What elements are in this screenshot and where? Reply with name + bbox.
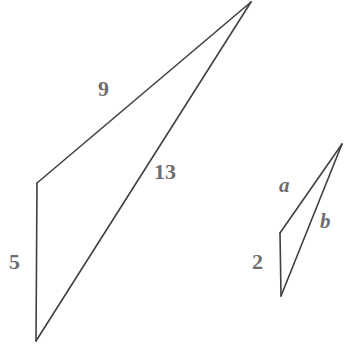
edge-label-9: 9 [98,78,109,100]
edge-label-13: 13 [154,161,176,183]
large-long-diagonal-edge [36,2,251,341]
edge-label-b: b [320,211,331,232]
large-triangle [36,2,251,341]
edge-label-a: a [279,175,290,196]
large-left-vertical-edge [36,183,37,341]
large-upper-slant-edge [37,2,251,183]
edge-label-5: 5 [9,251,20,273]
small-long-diagonal-edge [281,144,342,296]
small-left-vertical-edge [280,233,281,296]
small-triangle [280,144,342,296]
geometry-diagram-canvas [0,0,361,346]
edge-label-2: 2 [252,251,263,273]
